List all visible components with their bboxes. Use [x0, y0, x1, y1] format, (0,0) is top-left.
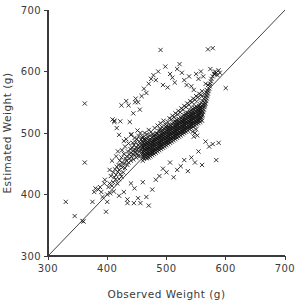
data-point-marker	[129, 181, 133, 185]
data-point-marker	[103, 178, 107, 182]
data-point-marker	[194, 72, 198, 76]
x-tick-label: 500	[156, 263, 176, 274]
data-point-marker	[157, 174, 161, 178]
data-point-marker	[119, 103, 123, 107]
data-point-marker	[180, 71, 184, 75]
data-point-marker	[208, 67, 212, 71]
data-point-marker	[166, 85, 170, 89]
data-point-marker	[147, 203, 151, 207]
data-point-marker	[201, 74, 205, 78]
data-point-marker	[122, 190, 126, 194]
data-point-marker	[108, 168, 112, 172]
data-point-marker	[114, 154, 118, 158]
scatter-plot-figure: 300400500600700 300400500600700 Observed…	[0, 0, 302, 304]
data-point-marker	[83, 160, 87, 164]
y-axis-tick-labels: 300400500600700	[21, 5, 41, 262]
data-point-marker	[179, 164, 183, 168]
x-tick-label: 600	[216, 263, 236, 274]
data-point-marker	[192, 88, 196, 92]
data-point-marker	[214, 158, 218, 162]
data-point-marker	[158, 48, 162, 52]
data-point-marker	[199, 69, 203, 73]
data-point-marker	[168, 160, 172, 164]
data-point-marker	[110, 117, 114, 121]
data-point-marker	[175, 168, 179, 172]
data-point-marker	[64, 200, 68, 204]
data-point-marker	[136, 196, 140, 200]
data-point-marker	[185, 83, 189, 87]
data-point-marker	[124, 137, 128, 141]
data-point-marker	[126, 103, 130, 107]
data-point-marker	[196, 149, 200, 153]
data-point-marker	[149, 77, 153, 81]
data-point-marker	[194, 127, 198, 131]
data-point-marker	[125, 201, 129, 205]
data-point-marker	[126, 141, 130, 145]
data-point-marker	[140, 94, 144, 98]
data-point-marker	[211, 142, 215, 146]
data-point-marker	[200, 163, 204, 167]
data-point-marker	[196, 77, 200, 81]
data-point-marker	[187, 74, 191, 78]
y-tick-label: 700	[21, 5, 41, 16]
data-point-marker	[156, 69, 160, 73]
y-tick-label: 500	[21, 128, 41, 139]
data-point-marker	[90, 200, 94, 204]
data-point-marker	[151, 73, 155, 77]
data-point-marker	[147, 82, 151, 86]
data-point-marker	[161, 167, 165, 171]
data-point-marker	[73, 214, 77, 218]
x-axis-ticks	[48, 256, 285, 260]
x-tick-label: 400	[97, 263, 117, 274]
data-point-marker	[161, 83, 165, 87]
data-point-markers	[64, 46, 228, 224]
data-point-marker	[154, 78, 158, 82]
data-point-marker	[154, 178, 158, 182]
data-point-marker	[116, 149, 120, 153]
data-point-marker	[115, 126, 119, 130]
data-point-marker	[104, 210, 108, 214]
data-point-marker	[211, 46, 215, 50]
x-axis-title: Observed Weight (g)	[107, 288, 225, 300]
y-axis-title: Estimated Weight (g)	[1, 72, 13, 193]
data-point-marker	[124, 99, 128, 103]
data-point-marker	[207, 144, 211, 148]
data-point-marker	[117, 168, 121, 172]
data-point-marker	[106, 185, 110, 189]
data-point-marker	[149, 130, 153, 134]
data-point-marker	[131, 111, 135, 115]
data-point-marker	[102, 181, 106, 185]
data-point-marker	[177, 62, 181, 66]
y-tick-label: 600	[21, 66, 41, 77]
y-axis-ticks	[44, 10, 48, 256]
data-point-marker	[206, 47, 210, 51]
data-point-marker	[83, 101, 87, 105]
data-point-marker	[141, 180, 145, 184]
data-point-marker	[224, 86, 228, 90]
data-point-marker	[110, 184, 114, 188]
x-tick-label: 700	[275, 263, 295, 274]
data-point-marker	[163, 64, 167, 68]
data-point-marker	[92, 190, 96, 194]
data-point-marker	[189, 84, 193, 88]
data-point-marker	[189, 156, 193, 160]
data-point-marker	[164, 170, 168, 174]
data-point-marker	[192, 135, 196, 139]
data-point-marker	[117, 194, 121, 198]
data-point-marker	[193, 160, 197, 164]
data-point-marker	[142, 87, 146, 91]
data-point-marker	[182, 158, 186, 162]
data-point-marker	[118, 119, 122, 123]
data-point-marker	[144, 91, 148, 95]
data-point-marker	[195, 133, 199, 137]
data-point-marker	[150, 187, 154, 191]
data-point-marker	[109, 174, 113, 178]
data-point-marker	[132, 186, 136, 190]
data-point-marker	[182, 78, 186, 82]
data-point-marker	[110, 159, 114, 163]
data-point-marker	[172, 115, 176, 119]
data-point-marker	[128, 120, 132, 124]
data-point-marker	[175, 67, 179, 71]
data-point-marker	[168, 72, 172, 76]
data-point-marker	[134, 96, 138, 100]
